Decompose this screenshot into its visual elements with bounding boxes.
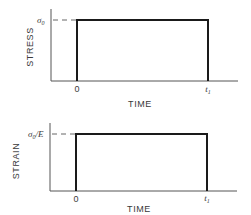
strain-tick-zero: 0 bbox=[73, 194, 78, 204]
strain-pulse bbox=[76, 134, 207, 191]
strain-axis-title: STRAIN bbox=[11, 143, 21, 180]
stress-tick-t1: t1 bbox=[205, 84, 211, 95]
stress-strain-diagram: σ0 STRESS 0 t1 TIME σ0/E STRAIN 0 t1 TIM… bbox=[0, 0, 251, 215]
strain-time-label: TIME bbox=[127, 204, 151, 214]
strain-tick-t1: t1 bbox=[204, 193, 210, 204]
stress-axis-title: STRESS bbox=[25, 27, 35, 67]
strain-panel: σ0/E STRAIN 0 t1 TIME bbox=[11, 123, 237, 214]
stress-time-label: TIME bbox=[128, 99, 152, 109]
stress-panel: σ0 STRESS 0 t1 TIME bbox=[25, 9, 238, 109]
stress-level-label: σ0 bbox=[37, 15, 44, 26]
stress-pulse bbox=[77, 20, 208, 81]
stress-tick-zero: 0 bbox=[74, 84, 79, 94]
strain-level-label: σ0/E bbox=[28, 129, 44, 140]
